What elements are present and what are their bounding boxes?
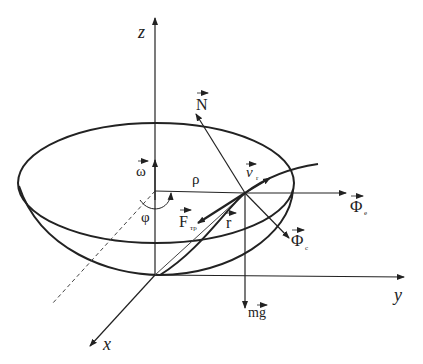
svg-text:F: F — [179, 213, 188, 230]
svg-text:Φ: Φ — [291, 231, 303, 250]
mg-label: mg — [248, 305, 267, 320]
svg-text:ω: ω — [136, 163, 146, 179]
omega-label: ω — [136, 161, 148, 179]
n-vector — [196, 114, 245, 193]
f-friction-label: F тр — [179, 210, 197, 232]
svg-text:e: e — [364, 209, 367, 217]
svg-text:mg: mg — [248, 305, 266, 320]
r-label: r — [226, 213, 236, 231]
rho-label: ρ — [192, 171, 200, 187]
v-label: v r — [246, 164, 259, 182]
phi-c-vector — [245, 193, 289, 238]
svg-text:Φ: Φ — [350, 197, 362, 216]
diagram-canvas: z y x ω ρ φ N v r Φ e Φ c F тр r mg — [0, 0, 423, 364]
svg-text:c: c — [305, 244, 308, 252]
svg-text:v: v — [246, 164, 253, 180]
x-axis — [90, 275, 155, 346]
y-axis — [155, 275, 404, 277]
n-label: N — [196, 93, 208, 113]
x-axis-label: x — [102, 334, 111, 354]
svg-text:r: r — [226, 214, 232, 231]
rotating-bowl-diagram: z y x ω ρ φ N v r Φ e Φ c F тр r mg — [0, 0, 423, 364]
svg-text:r: r — [256, 174, 259, 182]
y-axis-label: y — [392, 285, 402, 305]
svg-text:тр: тр — [190, 224, 197, 232]
svg-text:N: N — [196, 96, 208, 113]
phi-c-label: Φ c — [291, 230, 308, 252]
rho-line — [155, 191, 245, 193]
bowl-rim — [18, 123, 294, 243]
phi-e-label: Φ e — [350, 196, 367, 217]
phi-label: φ — [141, 209, 150, 225]
z-axis-label: z — [137, 22, 145, 42]
